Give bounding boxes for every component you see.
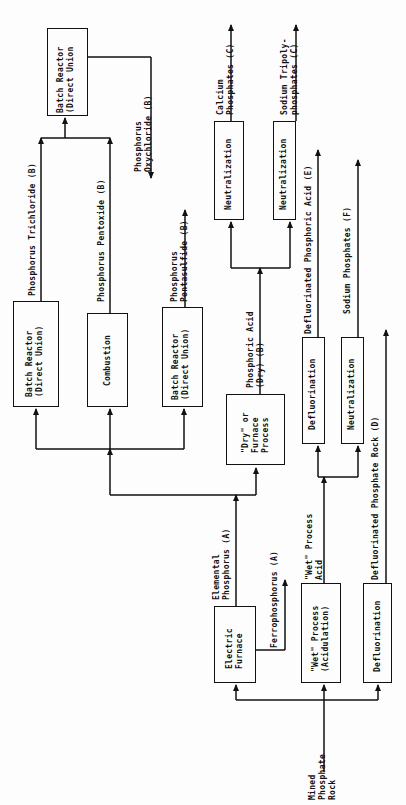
box-label: Process bbox=[261, 412, 271, 453]
defluorination-rock-box: Defluorination bbox=[363, 583, 392, 683]
flow-diagram: Batch Reactor(Direct Union Batch Reactor… bbox=[0, 0, 406, 805]
electric-furnace-box: ElectricFurnace bbox=[214, 606, 256, 683]
label-trichloride: Phosphorus Trichloride (B) bbox=[28, 163, 38, 296]
box-label: (Acidulation) bbox=[321, 605, 331, 672]
box-label: Defluorination bbox=[308, 358, 318, 430]
label-mined-rock: MinedPhosphateRock bbox=[308, 754, 338, 800]
label-defluorinated-rock: Defluorinated Phosphate Rock (D) bbox=[371, 416, 381, 580]
label-pentoxide: Phosphorus Pentoxide (B) bbox=[97, 179, 107, 302]
box-label: "Dry" or bbox=[241, 412, 251, 453]
defluorination-acid-box: Defluorination bbox=[302, 337, 325, 444]
box-label: Neutralization bbox=[347, 358, 357, 430]
box-label: (Direct Union) bbox=[181, 328, 191, 400]
box-label: Batch Reactor bbox=[171, 328, 181, 400]
neutralization-sodium-box: Neutralization bbox=[341, 337, 364, 444]
batch-reactor-trichloride-box: Batch Reactor(Direct Union) bbox=[13, 301, 59, 407]
box-label: Furnace bbox=[251, 412, 261, 453]
label-ferrophosphorus: Ferrophosphorus (A) bbox=[270, 551, 280, 648]
label-sodium-tripolyphosphates: Sodium Tripoly-phosphates (C) bbox=[280, 38, 300, 115]
label-elemental-phosphorus: ElementalPhosphorus (A) bbox=[212, 528, 232, 600]
box-label: (Direct Union) bbox=[35, 325, 45, 397]
label-calcium-phosphates: CalciumPhosphates (C) bbox=[216, 43, 236, 115]
label-wet-process-acid: "Wet" ProcessAcid bbox=[305, 513, 325, 580]
neutralization-tripoly-box: Neutralization bbox=[273, 121, 296, 220]
dry-process-box: "Dry" orFurnaceProcess bbox=[226, 394, 285, 465]
wet-process-box: "Wet" Process(Acidulation) bbox=[301, 583, 341, 683]
box-label: Neutralization bbox=[279, 138, 289, 210]
combustion-box: Combustion bbox=[87, 313, 128, 407]
box-label: (Direct Union bbox=[66, 46, 76, 113]
neutralization-calcium-box: Neutralization bbox=[214, 121, 244, 220]
box-label: Batch Reactor bbox=[56, 46, 66, 113]
batch-reactor-pentasulfide-box: Batch Reactor(Direct Union) bbox=[162, 307, 203, 407]
label-defluorinated-acid: Defluorinated Phosphoric Acid (E) bbox=[304, 165, 314, 334]
batch-reactor-oxychloride-box: Batch Reactor(Direct Union bbox=[47, 28, 88, 116]
box-label: Electric bbox=[225, 628, 235, 669]
label-sodium-phosphates: Sodium Phosphates (F) bbox=[343, 207, 353, 314]
box-label: Defluorination bbox=[373, 600, 383, 672]
box-label: Furnace bbox=[235, 628, 245, 669]
label-dry-phosphoric-acid: Phosphoric Acid(Dry) (B) bbox=[246, 311, 266, 388]
box-label: Combustion bbox=[103, 335, 113, 386]
box-label: Batch Reactor bbox=[25, 325, 35, 397]
box-label: "Wet" Process bbox=[311, 605, 321, 672]
label-pentasulfide: PhosphorusPentasulfide (B) bbox=[170, 220, 190, 302]
box-label: Neutralization bbox=[224, 138, 234, 210]
label-oxychloride: PhosphorusOxychloride (B) bbox=[134, 95, 154, 172]
